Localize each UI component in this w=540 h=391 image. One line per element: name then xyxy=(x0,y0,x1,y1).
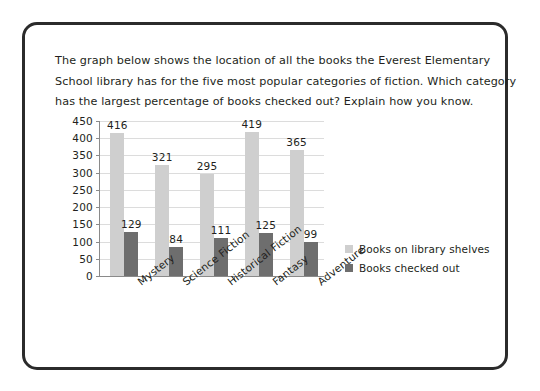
y-axis-tick xyxy=(96,259,100,260)
bar-value-label: 365 xyxy=(286,136,307,148)
bar-value-label: 416 xyxy=(107,119,128,131)
y-axis-tick-label: 400 xyxy=(72,132,93,144)
y-axis-labels: 050100150200250300350400450 xyxy=(57,121,93,276)
y-axis-tick-label: 150 xyxy=(72,218,93,230)
x-axis-category-label: Science Fiction xyxy=(180,278,187,287)
x-axis-category-label: Adventure xyxy=(315,278,322,287)
y-axis-tick-label: 350 xyxy=(72,149,93,161)
worksheet-card: The graph below shows the location of al… xyxy=(22,22,508,370)
y-axis-tick xyxy=(96,242,100,243)
y-axis-tick xyxy=(96,138,100,139)
prompt-line-3: has the largest percentage of books chec… xyxy=(55,92,487,113)
y-axis-tick-label: 300 xyxy=(72,167,93,179)
bar-value-label: 125 xyxy=(255,219,276,231)
y-axis-tick-label: 450 xyxy=(72,115,93,127)
legend-swatch xyxy=(345,264,353,272)
bar-value-label: 295 xyxy=(197,160,218,172)
bar-value-label: 129 xyxy=(121,218,142,230)
prompt-line-1: The graph below shows the location of al… xyxy=(55,51,487,72)
y-axis-tick xyxy=(96,207,100,208)
bar-chart: 050100150200250300350400450 416129321842… xyxy=(57,121,489,356)
y-axis-tick xyxy=(96,190,100,191)
y-axis-tick-label: 0 xyxy=(86,270,93,282)
bar: 129 xyxy=(124,232,138,276)
x-axis-category-label: Fantasy xyxy=(270,278,277,287)
y-axis-tick-label: 200 xyxy=(72,201,93,213)
bar-value-label: 84 xyxy=(169,233,183,245)
legend-label: Books on library shelves xyxy=(359,243,490,255)
chart-legend: Books on library shelvesBooks checked ou… xyxy=(345,243,495,281)
bar-value-label: 321 xyxy=(152,151,173,163)
prompt-line-2: School library has for the five most pop… xyxy=(55,72,487,93)
x-axis-labels: MysteryScience FictionHistorical Fiction… xyxy=(99,278,323,356)
legend-item: Books checked out xyxy=(345,262,495,274)
worksheet-page: The graph below shows the location of al… xyxy=(0,0,540,391)
y-axis-tick-label: 50 xyxy=(79,253,93,265)
y-axis-tick xyxy=(96,121,100,122)
y-axis-tick xyxy=(96,224,100,225)
legend-label: Books checked out xyxy=(359,262,460,274)
y-axis-tick-label: 250 xyxy=(72,184,93,196)
y-axis-tick xyxy=(96,276,100,277)
bar-value-label: 419 xyxy=(241,118,262,130)
bar-value-label: 111 xyxy=(211,224,232,236)
bar-value-label: 99 xyxy=(304,228,318,240)
y-axis-tick-label: 100 xyxy=(72,236,93,248)
legend-item: Books on library shelves xyxy=(345,243,495,255)
x-axis-category-label: Mystery xyxy=(135,278,142,287)
x-axis-category-label: Historical Fiction xyxy=(225,278,232,287)
bar: 416 xyxy=(110,133,124,276)
question-prompt: The graph below shows the location of al… xyxy=(55,51,487,113)
legend-swatch xyxy=(345,245,353,253)
y-axis-tick xyxy=(96,173,100,174)
y-axis-tick xyxy=(96,155,100,156)
bar-group: 416129 xyxy=(110,121,138,276)
